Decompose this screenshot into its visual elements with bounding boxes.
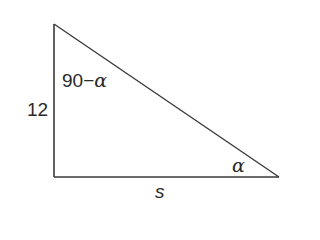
horizontal-side-label: s (155, 182, 165, 201)
vertical-side-label: 12 (27, 100, 48, 119)
top-angle-label: 90−α (62, 71, 107, 90)
horizontal-side-value: s (155, 181, 165, 202)
top-angle-prefix: 90− (62, 70, 94, 91)
alpha-symbol: α (232, 154, 245, 176)
right-angle-label: α (232, 156, 245, 175)
hypotenuse (54, 24, 279, 177)
vertical-side-value: 12 (27, 99, 48, 120)
alpha-symbol: α (94, 69, 107, 91)
